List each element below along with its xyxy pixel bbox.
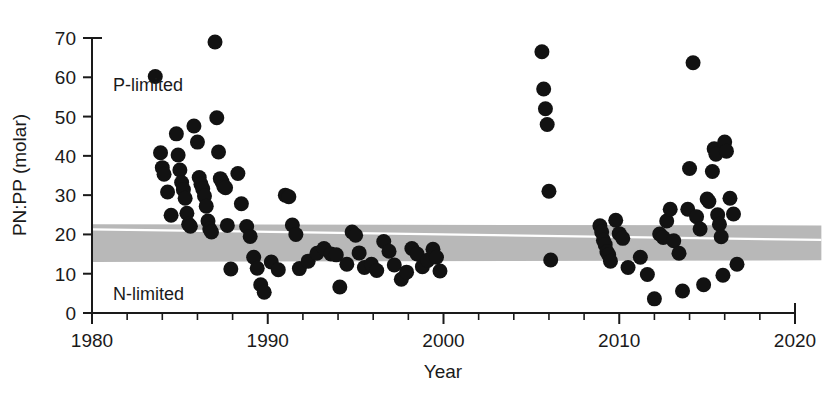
data-points — [148, 34, 745, 306]
data-point — [223, 262, 238, 277]
data-point — [701, 194, 716, 209]
data-point — [271, 262, 286, 277]
data-point — [190, 135, 205, 150]
x-tick-label-1980: 1980 — [71, 330, 113, 351]
y-tick-label-60: 60 — [55, 67, 76, 88]
data-point — [541, 184, 556, 199]
x-tick-labels: 19801990200020102020 — [71, 330, 816, 351]
data-point — [608, 213, 623, 228]
data-point — [429, 250, 444, 265]
data-point — [352, 245, 367, 260]
data-point — [171, 148, 186, 163]
data-point — [663, 202, 678, 217]
y-tick-label-0: 0 — [65, 303, 76, 324]
data-point — [675, 284, 690, 299]
data-point — [348, 228, 363, 243]
data-point — [715, 268, 730, 283]
data-point — [543, 252, 558, 267]
data-point — [164, 208, 179, 223]
data-point — [288, 227, 303, 242]
y-tick-label-40: 40 — [55, 146, 76, 167]
data-point — [211, 144, 226, 159]
annotation-n-limited: N-limited — [113, 284, 184, 304]
data-point — [712, 217, 727, 232]
data-point — [534, 44, 549, 59]
data-point — [209, 110, 224, 125]
data-point — [218, 180, 233, 195]
data-point — [382, 244, 397, 259]
data-point — [696, 277, 711, 292]
chart-canvas: 010203040506070 19801990200020102020 P-l… — [0, 0, 835, 393]
data-point — [722, 191, 737, 206]
x-tick-label-2000: 2000 — [422, 330, 464, 351]
x-tick-label-2010: 2010 — [598, 330, 640, 351]
data-point — [647, 291, 662, 306]
data-point — [719, 144, 734, 159]
data-point — [432, 263, 447, 278]
data-point — [230, 166, 245, 181]
data-point — [682, 161, 697, 176]
data-point — [243, 229, 258, 244]
data-point — [160, 185, 175, 200]
y-tick-label-20: 20 — [55, 224, 76, 245]
data-point — [615, 231, 630, 246]
x-tick-label-2020: 2020 — [774, 330, 816, 351]
data-point — [169, 126, 184, 141]
data-point — [672, 246, 687, 261]
data-point — [178, 191, 193, 206]
data-point — [399, 265, 414, 280]
data-point — [172, 163, 187, 178]
annotation-p-limited: P-limited — [113, 75, 183, 95]
data-point — [339, 257, 354, 272]
data-point — [220, 218, 235, 233]
data-point — [234, 196, 249, 211]
data-point — [640, 267, 655, 282]
data-point — [538, 101, 553, 116]
data-point — [153, 145, 168, 160]
x-axis-title: Year — [424, 361, 463, 382]
data-point — [332, 280, 347, 295]
data-point — [603, 254, 618, 269]
data-point — [204, 225, 219, 240]
data-point — [686, 55, 701, 70]
data-point — [536, 82, 551, 97]
data-point — [186, 119, 201, 134]
x-tick-label-1990: 1990 — [247, 330, 289, 351]
data-point — [633, 250, 648, 265]
data-point — [250, 261, 265, 276]
data-point — [157, 167, 172, 182]
y-tick-label-70: 70 — [55, 28, 76, 49]
data-point — [714, 229, 729, 244]
y-axis-title: PN:PP (molar) — [9, 114, 30, 236]
y-tick-label-50: 50 — [55, 107, 76, 128]
data-point — [705, 164, 720, 179]
y-tick-label-10: 10 — [55, 264, 76, 285]
data-point — [183, 219, 198, 234]
data-point — [540, 117, 555, 132]
data-point — [369, 263, 384, 278]
data-point — [199, 199, 214, 214]
scatter-plot-figure: 010203040506070 19801990200020102020 P-l… — [0, 0, 835, 393]
y-tick-label-30: 30 — [55, 185, 76, 206]
data-point — [208, 34, 223, 49]
data-point — [726, 207, 741, 222]
data-point — [257, 285, 272, 300]
data-point — [693, 221, 708, 236]
data-point — [621, 260, 636, 275]
y-tick-labels: 010203040506070 — [55, 28, 76, 324]
axis-ticks — [83, 38, 795, 324]
data-point — [730, 257, 745, 272]
data-point — [281, 189, 296, 204]
